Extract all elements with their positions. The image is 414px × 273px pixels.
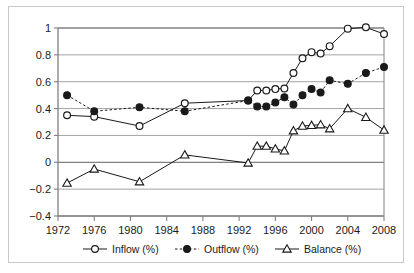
legend-label: Inflow (%)	[112, 243, 159, 255]
data-point	[281, 85, 288, 92]
legend-label: Balance (%)	[304, 243, 361, 255]
data-point	[317, 89, 324, 96]
legend-item-balance[interactable]: Balance (%)	[275, 243, 361, 255]
data-point	[380, 126, 388, 133]
y-tick-label: −0.4	[29, 210, 51, 222]
x-tick-label: 2008	[372, 224, 396, 236]
data-point	[344, 25, 351, 32]
series-balance	[63, 104, 388, 186]
y-tick-label: 0.2	[36, 129, 51, 141]
data-point	[136, 123, 143, 130]
data-point	[326, 43, 333, 50]
data-point	[381, 64, 388, 71]
data-point	[181, 108, 188, 115]
data-point	[254, 87, 261, 94]
data-point	[254, 103, 261, 110]
data-point	[272, 99, 279, 106]
series-line	[67, 27, 384, 126]
legend-marker	[184, 246, 191, 253]
data-point	[317, 50, 324, 57]
y-tick-label: 0.4	[36, 103, 51, 115]
data-point	[362, 113, 370, 120]
data-point	[308, 86, 315, 93]
x-tick-label: 1984	[154, 224, 178, 236]
data-point	[344, 104, 352, 111]
data-point	[326, 77, 333, 84]
data-point	[90, 165, 98, 172]
data-point	[262, 142, 270, 149]
data-point	[64, 112, 71, 119]
data-point	[344, 80, 351, 87]
x-tick-label: 2004	[336, 224, 360, 236]
x-tick-label: 1996	[263, 224, 287, 236]
series-inflow	[64, 24, 388, 130]
y-tick-label: 0.8	[36, 49, 51, 61]
x-tick-label: 1992	[227, 224, 251, 236]
legend-marker	[283, 245, 291, 252]
data-point	[290, 101, 297, 108]
data-point	[299, 55, 306, 62]
data-point	[253, 142, 261, 149]
data-point	[289, 127, 297, 134]
y-tick-label: 1	[45, 22, 51, 34]
y-tick-label: −0.2	[29, 183, 51, 195]
data-point	[91, 108, 98, 115]
y-tick-label: 0	[45, 156, 51, 168]
data-point	[308, 49, 315, 56]
data-point	[362, 70, 369, 77]
data-point	[181, 100, 188, 107]
data-point	[181, 151, 189, 158]
data-point	[245, 97, 252, 104]
series-outflow	[64, 64, 388, 115]
data-point	[299, 92, 306, 99]
legend-item-inflow[interactable]: Inflow (%)	[83, 243, 159, 255]
legend-marker	[92, 246, 99, 253]
data-point	[381, 31, 388, 38]
data-point	[290, 70, 297, 77]
data-point	[64, 92, 71, 99]
line-chart: 10.80.60.40.20−0.2−0.4197219761980198419…	[0, 0, 414, 273]
data-point	[272, 86, 279, 93]
x-axis-ticks: 1972197619801984198819921996200020042008	[46, 216, 396, 236]
legend-item-outflow[interactable]: Outflow (%)	[175, 243, 259, 255]
x-tick-label: 1976	[82, 224, 106, 236]
series-line	[67, 109, 384, 184]
y-tick-label: 0.6	[36, 76, 51, 88]
series-line	[67, 67, 384, 111]
data-point	[63, 179, 71, 186]
legend-label: Outflow (%)	[204, 243, 259, 255]
x-tick-label: 1980	[118, 224, 142, 236]
data-point	[263, 87, 270, 94]
x-tick-label: 2000	[299, 224, 323, 236]
data-point	[281, 94, 288, 101]
data-point	[263, 103, 270, 110]
x-tick-label: 1972	[46, 224, 70, 236]
y-axis-ticks: 10.80.60.40.20−0.2−0.4	[29, 22, 58, 222]
data-point	[316, 120, 324, 127]
chart-figure: 10.80.60.40.20−0.2−0.4197219761980198419…	[0, 0, 414, 273]
data-point	[362, 24, 369, 31]
chart-legend: Inflow (%)Outflow (%)Balance (%)	[83, 243, 361, 255]
data-point	[136, 104, 143, 111]
x-tick-label: 1988	[191, 224, 215, 236]
